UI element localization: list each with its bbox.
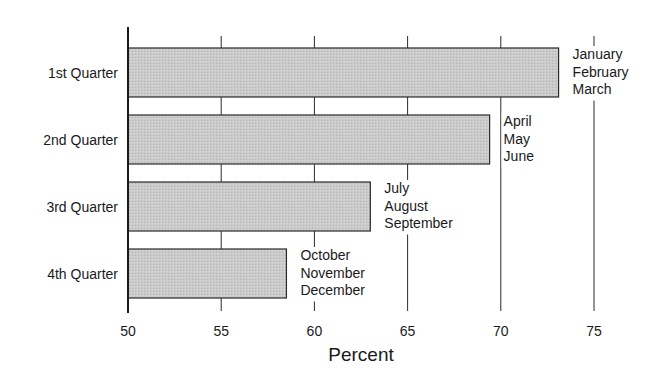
month-annotation: AprilMayJune <box>504 113 535 164</box>
month-label: August <box>384 198 428 214</box>
month-label: May <box>504 131 530 147</box>
x-tick-label: 70 <box>493 323 509 339</box>
month-label: January <box>573 46 623 62</box>
month-label: March <box>573 81 612 97</box>
month-label: February <box>573 64 629 80</box>
x-tick-label: 55 <box>213 323 229 339</box>
month-label: September <box>384 215 453 231</box>
bar-1 <box>128 48 559 97</box>
bar-4 <box>128 249 286 298</box>
x-tick-labels: 505560657075 <box>120 323 602 339</box>
x-tick-label: 75 <box>586 323 602 339</box>
month-label: June <box>504 148 535 164</box>
month-label: November <box>300 265 365 281</box>
month-label: October <box>300 247 350 263</box>
category-label: 1st Quarter <box>48 65 118 81</box>
x-tick-label: 65 <box>400 323 416 339</box>
bar-2 <box>128 115 490 164</box>
x-tick-label: 60 <box>307 323 323 339</box>
category-label: 3rd Quarter <box>46 199 118 215</box>
quarterly-percent-bar-chart: 1st Quarter2nd Quarter3rd Quarter4th Qua… <box>0 0 671 383</box>
bar-3 <box>128 182 370 231</box>
x-axis-title: Percent <box>328 344 394 365</box>
x-tick-label: 50 <box>120 323 136 339</box>
category-labels: 1st Quarter2nd Quarter3rd Quarter4th Qua… <box>43 65 118 282</box>
month-label: July <box>384 180 409 196</box>
month-label: December <box>300 282 365 298</box>
category-label: 2nd Quarter <box>43 132 118 148</box>
month-label: April <box>504 113 532 129</box>
category-label: 4th Quarter <box>47 266 118 282</box>
